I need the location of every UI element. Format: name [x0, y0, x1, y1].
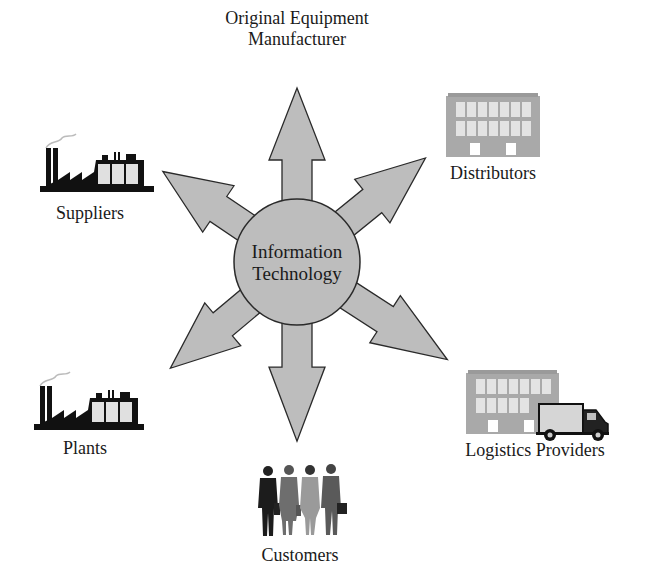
factory-icon: [40, 130, 154, 196]
node-suppliers-label: Suppliers: [42, 203, 138, 224]
hub-label-line2: Technology: [237, 263, 357, 285]
hub-label-line1: Information: [237, 241, 357, 263]
business-people-icon: [256, 463, 348, 539]
hub-label: Information Technology: [237, 241, 357, 285]
factory-icon: [34, 368, 144, 434]
building-truck-icon: [466, 370, 612, 442]
node-plants-label: Plants: [40, 438, 130, 459]
node-distributors-label: Distributors: [440, 163, 546, 184]
oem-line1: Original Equipment: [197, 8, 397, 29]
node-logistics-label: Logistics Providers: [450, 440, 620, 461]
node-customers-label: Customers: [240, 545, 360, 566]
node-oem-label: Original Equipment Manufacturer: [197, 8, 397, 50]
oem-line2: Manufacturer: [197, 29, 397, 50]
building-icon: [446, 93, 540, 157]
